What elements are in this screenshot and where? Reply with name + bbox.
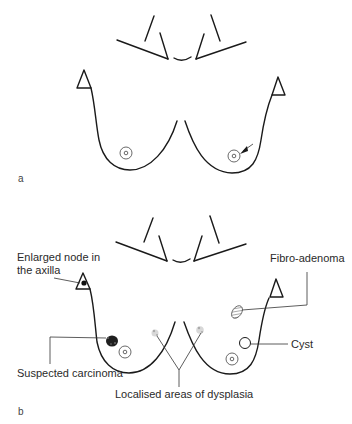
left-nipple-icon <box>119 346 131 358</box>
enlarged-node-label-line2: the axilla <box>17 264 61 276</box>
panel-label-a: a <box>18 173 24 184</box>
right-nipple-icon <box>226 353 238 365</box>
left-axilla-triangle <box>77 70 91 88</box>
carcinoma-marker <box>106 336 118 347</box>
left-breast-outline <box>90 289 175 373</box>
enlarged-node-label-line1: Enlarged node in <box>17 251 100 263</box>
dysplasia-leader-line <box>157 333 201 370</box>
dysplasia-label: Localised areas of dysplasia <box>115 388 254 400</box>
right-axilla-triangle <box>270 279 283 297</box>
neck-shoulders-outline <box>116 216 246 262</box>
fibro-adenoma-label: Fibro-adenoma <box>270 252 345 264</box>
dysplasia-spot-right <box>196 326 204 334</box>
neck-shoulders-outline <box>117 15 246 60</box>
right-axilla-triangle <box>272 77 285 95</box>
right-nipple-icon <box>228 150 240 162</box>
right-breast-outline <box>184 298 269 374</box>
right-breast-outline <box>185 95 272 173</box>
enlarged-node-marker <box>81 280 86 285</box>
left-breast-outline <box>91 88 177 170</box>
suspected-carcinoma-label: Suspected carcinoma <box>17 367 124 379</box>
cyst-label: Cyst <box>291 338 313 350</box>
breast-examination-diagram: a <box>0 0 352 424</box>
panel-label-b: b <box>18 406 24 417</box>
node-leader-line <box>54 278 80 283</box>
fibro-adenoma-leader-line <box>242 272 307 310</box>
left-nipple-icon <box>120 147 132 159</box>
panel-a: a <box>18 15 285 184</box>
cyst-marker <box>240 338 251 349</box>
arrow-icon <box>240 144 253 154</box>
carcinoma-leader-line <box>50 337 106 364</box>
fibro-adenoma-marker <box>229 304 244 321</box>
panel-b: Enlarged node in the axilla Fibro-adenom… <box>17 216 345 417</box>
dysplasia-spot-left <box>152 330 159 337</box>
